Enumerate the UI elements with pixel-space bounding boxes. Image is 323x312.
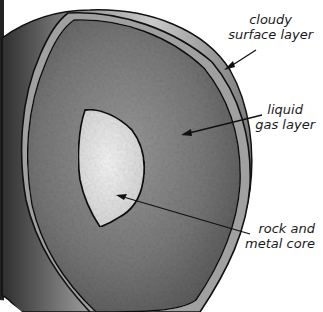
label-line: metal core (245, 236, 315, 251)
label-line: gas layer (255, 117, 315, 132)
planet-diagram: cloudy surface layer liquid gas layer ro… (0, 0, 323, 312)
label-rock-metal-core: rock and metal core (245, 221, 315, 251)
arrow-cloudy-surface (224, 50, 256, 70)
label-cloudy-surface-layer: cloudy surface layer (228, 12, 313, 42)
planet-cross-section (0, 0, 323, 312)
label-line: surface layer (228, 27, 313, 42)
label-line: rock and (245, 221, 315, 236)
label-line: cloudy (228, 12, 313, 27)
label-line: liquid (255, 102, 315, 117)
label-liquid-gas-layer: liquid gas layer (255, 102, 315, 132)
